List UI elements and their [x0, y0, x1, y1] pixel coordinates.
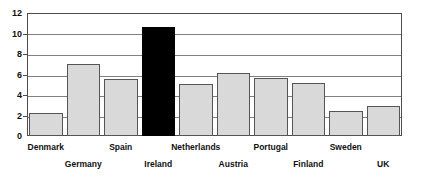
y-tick-label: 2	[0, 111, 22, 120]
bar	[292, 83, 326, 136]
bar	[179, 84, 213, 136]
y-tick-label: 0	[0, 132, 22, 141]
y-tick-label: 6	[0, 70, 22, 79]
x-tick-label: Netherlands	[171, 142, 220, 152]
x-tick-label: Ireland	[144, 159, 172, 169]
x-tick-label: Spain	[109, 142, 132, 152]
x-tick-label: Germany	[65, 159, 102, 169]
x-tick-label: UK	[377, 159, 389, 169]
bar	[217, 73, 251, 136]
y-tick-mark	[23, 34, 27, 35]
x-tick-label: Sweden	[330, 142, 362, 152]
x-tick-label: Finland	[293, 159, 323, 169]
y-tick-mark	[23, 95, 27, 96]
bar	[367, 106, 401, 136]
x-axis: DenmarkGermanySpainIrelandNetherlandsAus…	[27, 137, 402, 184]
y-tick-label: 10	[0, 29, 22, 38]
bar	[29, 113, 63, 136]
bar	[104, 79, 138, 136]
y-tick-mark	[23, 116, 27, 117]
bar	[67, 64, 101, 136]
bar	[254, 78, 288, 136]
bar	[142, 27, 176, 136]
y-tick-label: 12	[0, 9, 22, 18]
x-tick-label: Denmark	[28, 142, 64, 152]
x-tick-label: Portugal	[254, 142, 288, 152]
y-tick-label: 8	[0, 50, 22, 59]
bars-layer	[27, 13, 402, 136]
bar-chart: 024681012 DenmarkGermanySpainIrelandNeth…	[0, 0, 421, 184]
bar	[329, 111, 363, 136]
y-axis: 024681012	[0, 0, 22, 184]
y-tick-mark	[23, 54, 27, 55]
y-tick-mark	[23, 75, 27, 76]
x-tick-label: Austria	[219, 159, 248, 169]
y-tick-label: 4	[0, 91, 22, 100]
